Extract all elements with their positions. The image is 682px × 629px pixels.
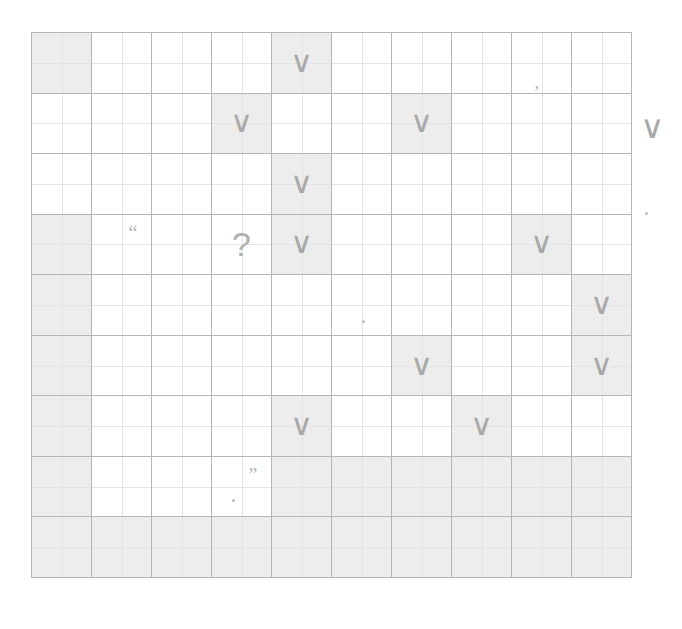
grid-cell[interactable]: [512, 336, 572, 397]
practice-grid: ∨,∨∨∨“?∨∨∨∨∨∨∨”: [31, 32, 632, 578]
grid-cell[interactable]: [32, 275, 92, 336]
grid-cell[interactable]: [572, 517, 632, 578]
tick-icon: ∨: [590, 350, 613, 380]
question-mark-glyph: ?: [232, 227, 251, 261]
grid-cell[interactable]: ∨: [572, 275, 632, 336]
grid-cell[interactable]: ?: [212, 215, 272, 276]
grid-cell[interactable]: ”: [212, 457, 272, 518]
grid-cell[interactable]: [32, 154, 92, 215]
grid-cell[interactable]: [572, 457, 632, 518]
grid-cell[interactable]: [572, 396, 632, 457]
grid-cell[interactable]: [272, 94, 332, 155]
grid-cell[interactable]: [332, 396, 392, 457]
margin-tick-icon: ∨: [640, 111, 664, 143]
grid-cell[interactable]: [572, 94, 632, 155]
grid-cell[interactable]: [272, 457, 332, 518]
tick-icon: ∨: [590, 289, 613, 319]
grid-cell[interactable]: [152, 215, 212, 276]
worksheet-canvas: ∨,∨∨∨“?∨∨∨∨∨∨∨” ∨: [0, 0, 682, 629]
grid-cell[interactable]: ∨: [272, 154, 332, 215]
grid-cell[interactable]: [452, 275, 512, 336]
grid-cell[interactable]: [572, 154, 632, 215]
grid-cell[interactable]: [32, 94, 92, 155]
grid-cell[interactable]: [32, 33, 92, 94]
grid-cell[interactable]: [392, 275, 452, 336]
grid-cell[interactable]: [512, 94, 572, 155]
grid-cell[interactable]: [332, 275, 392, 336]
grid-cell[interactable]: [92, 275, 152, 336]
grid-cell[interactable]: [332, 33, 392, 94]
grid-cell[interactable]: [512, 154, 572, 215]
grid-cell[interactable]: [92, 457, 152, 518]
grid-cell[interactable]: [92, 94, 152, 155]
grid-cell[interactable]: [92, 396, 152, 457]
grid-cell[interactable]: [272, 275, 332, 336]
grid-cell[interactable]: [272, 336, 332, 397]
grid-cell[interactable]: ∨: [212, 94, 272, 155]
grid-cell[interactable]: [32, 517, 92, 578]
grid-cell[interactable]: [452, 336, 512, 397]
grid-cell[interactable]: ∨: [452, 396, 512, 457]
grid-cell[interactable]: [92, 154, 152, 215]
grid-cell[interactable]: [512, 275, 572, 336]
grid-cell[interactable]: [572, 33, 632, 94]
grid-cell[interactable]: [32, 457, 92, 518]
grid-cell[interactable]: [212, 154, 272, 215]
grid-cell[interactable]: [512, 457, 572, 518]
grid-cell[interactable]: [92, 336, 152, 397]
grid-cell[interactable]: [212, 396, 272, 457]
grid-cell[interactable]: [152, 94, 212, 155]
grid-cell[interactable]: [392, 154, 452, 215]
pencil-dot-icon: [362, 320, 365, 323]
grid-cell[interactable]: “: [92, 215, 152, 276]
tick-icon: ∨: [470, 410, 493, 440]
grid-cell[interactable]: [152, 33, 212, 94]
grid-cell[interactable]: [32, 396, 92, 457]
grid-cell[interactable]: [92, 33, 152, 94]
grid-cell[interactable]: [452, 94, 512, 155]
grid-cell[interactable]: [152, 275, 212, 336]
grid-cell[interactable]: [212, 33, 272, 94]
grid-cell[interactable]: [32, 215, 92, 276]
grid-cell[interactable]: [572, 215, 632, 276]
grid-cell[interactable]: ∨: [392, 336, 452, 397]
grid-cell[interactable]: [152, 396, 212, 457]
grid-cell[interactable]: [152, 517, 212, 578]
grid-cell[interactable]: [452, 457, 512, 518]
grid-cell[interactable]: [92, 517, 152, 578]
margin-dot-icon: [645, 212, 648, 215]
grid-cell[interactable]: [152, 154, 212, 215]
grid-cell[interactable]: [212, 336, 272, 397]
grid-cell[interactable]: [512, 396, 572, 457]
grid-cell[interactable]: [452, 517, 512, 578]
grid-cell[interactable]: [512, 517, 572, 578]
grid-cell[interactable]: [272, 517, 332, 578]
grid-cell[interactable]: [392, 396, 452, 457]
grid-cell[interactable]: ∨: [272, 215, 332, 276]
grid-cell[interactable]: ∨: [392, 94, 452, 155]
grid-cell[interactable]: ,: [512, 33, 572, 94]
grid-cell[interactable]: ∨: [512, 215, 572, 276]
grid-cell[interactable]: [392, 457, 452, 518]
grid-cell[interactable]: [452, 33, 512, 94]
grid-cell[interactable]: [332, 154, 392, 215]
grid-cell[interactable]: [212, 275, 272, 336]
grid-cell[interactable]: [452, 215, 512, 276]
grid-cell[interactable]: [212, 517, 272, 578]
grid-cell[interactable]: [392, 215, 452, 276]
grid-cell[interactable]: [392, 33, 452, 94]
opening-quote-glyph: “: [129, 223, 138, 243]
grid-cell[interactable]: [332, 517, 392, 578]
grid-cell[interactable]: ∨: [272, 396, 332, 457]
grid-cell[interactable]: [332, 215, 392, 276]
grid-cell[interactable]: [332, 336, 392, 397]
grid-cell[interactable]: [392, 517, 452, 578]
grid-cell[interactable]: [152, 336, 212, 397]
grid-cell[interactable]: [332, 94, 392, 155]
grid-cell[interactable]: [452, 154, 512, 215]
grid-cell[interactable]: [332, 457, 392, 518]
grid-cell[interactable]: ∨: [572, 336, 632, 397]
grid-cell[interactable]: ∨: [272, 33, 332, 94]
grid-cell[interactable]: [32, 336, 92, 397]
grid-cell[interactable]: [152, 457, 212, 518]
